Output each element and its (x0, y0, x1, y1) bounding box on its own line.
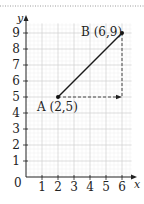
coordinate-graph: y x 0 123456 123456789 A (2,5) B (6,9) (0, 0, 144, 204)
y-tick-label: 2 (12, 138, 20, 152)
x-tick-label: 6 (118, 180, 126, 194)
point-a-label: A (2,5) (36, 100, 78, 114)
origin-label: 0 (14, 176, 22, 190)
x-tick-label: 1 (38, 180, 46, 194)
point-b-label: B (6,9) (81, 25, 122, 39)
x-tick-labels: 123456 (38, 180, 126, 194)
x-tick-label: 2 (54, 180, 62, 194)
y-tick-label: 4 (12, 106, 20, 120)
dashed-arrow-head-icon (116, 95, 122, 99)
y-axis-arrow-icon (24, 15, 29, 21)
graph-svg: y x 0 123456 123456789 A (2,5) B (6,9) (0, 0, 144, 204)
y-tick-label: 9 (12, 26, 20, 40)
y-tick-label: 1 (12, 154, 20, 168)
x-tick-label: 4 (86, 180, 94, 194)
y-tick-label: 6 (12, 74, 20, 88)
x-tick-label: 3 (70, 180, 78, 194)
y-tick-label: 3 (12, 122, 20, 136)
y-tick-labels: 123456789 (12, 26, 20, 168)
y-tick-label: 5 (12, 90, 20, 104)
y-tick-label: 8 (12, 42, 20, 56)
x-tick-label: 5 (102, 180, 110, 194)
x-axis-label: x (134, 178, 141, 191)
y-axis-label: y (16, 12, 24, 25)
point-a (56, 95, 60, 99)
y-tick-label: 7 (12, 58, 20, 72)
